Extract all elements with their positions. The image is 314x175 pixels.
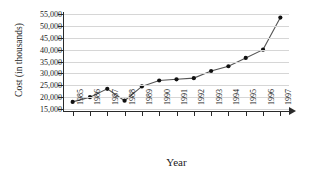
x-tick-label: 1991 (180, 89, 189, 119)
gridline (64, 62, 289, 63)
x-tick-label: 1995 (249, 89, 258, 119)
x-tick-mark (246, 111, 247, 116)
x-tick-mark (177, 111, 178, 116)
y-tick-mark (58, 73, 64, 74)
x-tick-mark (211, 111, 212, 116)
x-tick-mark (73, 111, 74, 116)
gridline (64, 73, 289, 74)
data-point (122, 99, 126, 103)
x-tick-mark (263, 111, 264, 116)
gridline (64, 26, 289, 27)
x-tick-mark (280, 111, 281, 116)
x-tick-label: 1989 (145, 89, 154, 119)
y-tick-mark (58, 38, 64, 39)
data-point (71, 100, 75, 104)
data-point (226, 64, 230, 68)
y-tick-mark (58, 26, 64, 27)
x-tick-label: 1996 (267, 89, 276, 119)
x-tick-label: 1992 (197, 89, 206, 119)
gridline (64, 85, 289, 86)
gridline (64, 14, 289, 15)
gridline (64, 50, 289, 51)
x-tick-label: 1988 (128, 89, 137, 119)
data-point (157, 78, 161, 82)
data-point (174, 77, 178, 81)
x-tick-mark (142, 111, 143, 116)
x-tick-label: 1987 (111, 89, 120, 119)
x-tick-mark (107, 111, 108, 116)
x-tick-label: 1993 (215, 89, 224, 119)
y-axis-tick-labels: 15,00020,00025,00030,00035,00040,00045,0… (22, 0, 62, 175)
gridline (64, 38, 289, 39)
x-tick-mark (194, 111, 195, 116)
data-point (105, 87, 109, 91)
line-chart: Cost (in thousands) 15,00020,00025,00030… (0, 0, 314, 175)
x-tick-label: 1994 (232, 89, 241, 119)
x-tick-label: 1985 (76, 89, 85, 119)
y-tick-mark (58, 50, 64, 51)
data-point (244, 56, 248, 60)
x-tick-label: 1986 (93, 89, 102, 119)
y-tick-mark (58, 97, 64, 98)
x-tick-mark (228, 111, 229, 116)
data-point (192, 76, 196, 80)
data-point (278, 15, 282, 19)
x-tick-label: 1997 (284, 89, 293, 119)
x-axis-title: Year (64, 156, 289, 168)
x-tick-mark (90, 111, 91, 116)
x-tick-label: 1990 (163, 89, 172, 119)
y-tick-mark (58, 62, 64, 63)
y-tick-mark (58, 109, 64, 110)
x-tick-mark (125, 111, 126, 116)
y-tick-mark (58, 14, 64, 15)
y-tick-mark (58, 85, 64, 86)
x-tick-mark (159, 111, 160, 116)
